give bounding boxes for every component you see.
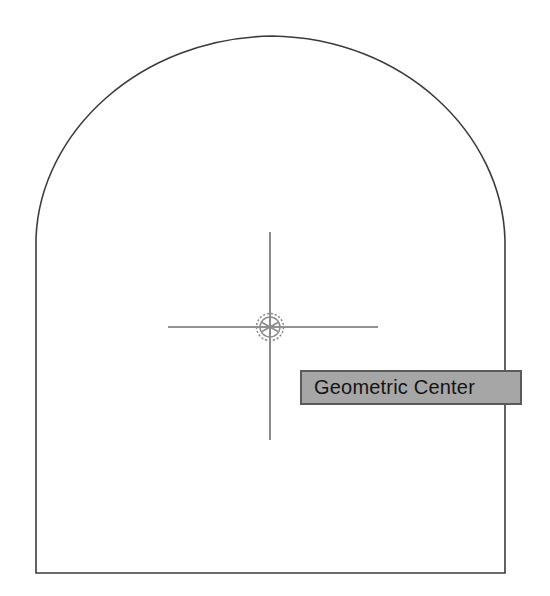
osnap-tooltip-label: Geometric Center [314, 376, 475, 399]
drawing-canvas-svg [0, 0, 550, 596]
osnap-tooltip: Geometric Center [300, 370, 522, 405]
geometric-center-osnap-marker-icon[interactable] [257, 314, 284, 341]
cad-viewport[interactable]: Geometric Center [0, 0, 550, 596]
